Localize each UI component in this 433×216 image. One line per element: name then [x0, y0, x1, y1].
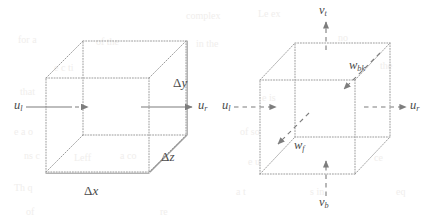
label-velocity-u-left: ul [14, 99, 23, 113]
panel-control-volume-face-velocities: vt vb ul ur wbk wf [216, 0, 433, 216]
label-velocity-v-bottom: vb [319, 196, 329, 210]
label-velocity-u-right: ur [410, 99, 420, 113]
cube-back-face [295, 43, 390, 137]
cube-back-face [83, 41, 186, 135]
cube-connecting-edges [260, 43, 390, 174]
label-velocity-u-left: ul [222, 99, 231, 113]
left-cube-drawing [0, 0, 216, 216]
cube-front-face [46, 78, 149, 172]
panel-control-volume-dimensions: ul ur Δy Δz Δx [0, 0, 216, 216]
cube-front-face [260, 80, 355, 174]
label-velocity-w-back: wbk [349, 59, 365, 73]
label-dimension-delta-x: Δx [84, 184, 98, 197]
right-cube-drawing [216, 0, 433, 216]
label-dimension-delta-z: Δz [161, 150, 174, 163]
figure-root: complexLe exfor aof thein thenoe c tithe… [0, 0, 433, 216]
label-velocity-u-right: ur [198, 99, 208, 113]
label-velocity-v-top: vt [319, 4, 327, 18]
label-dimension-delta-y: Δy [173, 76, 187, 89]
label-velocity-w-front: wf [294, 139, 305, 153]
